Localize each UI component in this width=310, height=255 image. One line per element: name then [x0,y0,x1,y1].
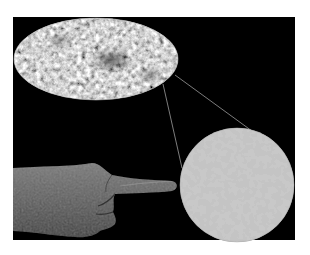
illustration [0,0,310,255]
sky-map [14,18,178,100]
magnified-patch [180,128,294,242]
